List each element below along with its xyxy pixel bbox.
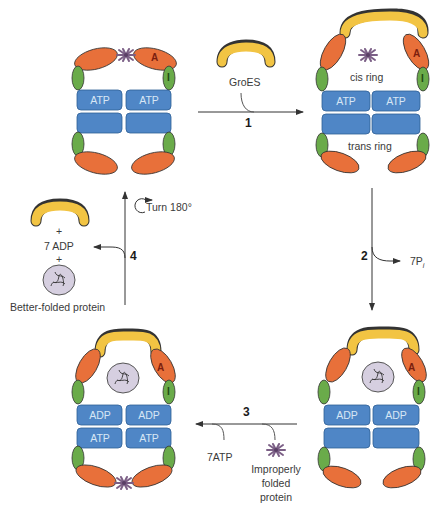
improperly-folded-protein-icon [267,444,285,456]
tl-apical-label: A [151,52,158,63]
phosphate-label: 7Pi [410,255,424,269]
unfolded-protein-icon [117,49,135,61]
turn-label: Turn 180° [146,201,192,213]
bl-ring-lower-left: ATP [77,432,123,444]
tr-ring-upper-left: ATP [323,95,369,107]
tr-intermediate-label: I [421,73,424,84]
groes-released-icon [36,206,84,221]
br-ring-upper-left: ADP [324,409,370,421]
bl-ring-upper-right: ADP [126,409,172,421]
step1-number: 1 [245,116,252,130]
plus-sign-2: + [56,253,62,265]
protein-blob-icon [107,363,139,393]
complex-top-left [72,44,179,179]
bl-ring-upper-left: ADP [77,409,123,421]
tl-ring-upper-right: ATP [126,94,172,106]
adp-release-label: 7 ADP [44,240,74,252]
unfolded-protein-icon [359,49,377,61]
unfolded-protein-icon [115,477,133,489]
br-apical-label: A [408,362,415,373]
chaperonin-cycle-diagram: ATP ATP A I ATP ATP A I cis ring trans r… [0,0,434,511]
br-intermediate-label: I [417,386,420,397]
tl-ring-upper-left: ATP [77,94,123,106]
plus-sign-1: + [56,225,62,237]
step3-number: 3 [243,405,250,419]
bl-intermediate-label: I [167,386,170,397]
protein-blob-icon [362,362,394,392]
trans-ring-label: trans ring [348,140,392,152]
step2-number: 2 [361,249,368,263]
better-folded-protein-label: Better-folded protein [10,301,105,313]
bl-ring-lower-right: ATP [126,432,172,444]
better-folded-protein-icon [43,265,75,295]
groes-icon [222,47,270,62]
atp-input-label: 7ATP [207,451,232,463]
step4-number: 4 [130,249,137,263]
bl-apical-label: A [157,362,164,373]
tr-ring-upper-right: ATP [373,95,419,107]
br-ring-upper-right: ADP [373,409,419,421]
tl-intermediate-label: I [167,72,170,83]
improperly-folded-label: Improperly folded protein [246,462,306,504]
cis-ring-label: cis ring [350,71,383,83]
groes-label: GroES [229,76,261,88]
tr-apical-label: A [413,48,420,59]
